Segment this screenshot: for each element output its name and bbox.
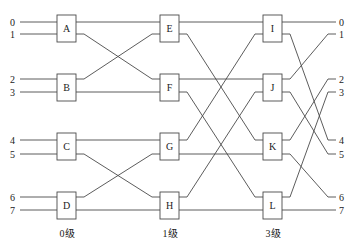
switch-E: E — [160, 15, 179, 42]
input-label-1: 1 — [10, 29, 15, 40]
output-labels: 0 1 2 3 4 5 6 7 — [339, 17, 344, 216]
input-label-4: 4 — [10, 135, 15, 146]
svg-text:K: K — [269, 141, 277, 152]
switch-D: D — [57, 192, 76, 219]
stage-3: I J K L 3级 — [263, 15, 282, 239]
svg-text:F: F — [167, 82, 173, 93]
switch-I: I — [263, 15, 282, 42]
input-label-5: 5 — [10, 149, 15, 160]
switch-G: G — [160, 133, 179, 160]
butterfly-network-diagram: 0 1 2 3 4 5 6 7 0 1 2 3 4 5 6 7 A B C — [0, 0, 357, 243]
output-label-5: 5 — [339, 149, 344, 160]
stage1-to-stage3-wires — [179, 22, 263, 210]
input-label-2: 2 — [10, 74, 15, 85]
svg-text:J: J — [271, 82, 275, 93]
input-label-0: 0 — [10, 17, 15, 28]
output-label-2: 2 — [339, 74, 344, 85]
output-label-0: 0 — [339, 17, 344, 28]
svg-text:B: B — [63, 82, 70, 93]
output-label-3: 3 — [339, 87, 344, 98]
input-wires — [20, 22, 57, 210]
stage-0: A B C D 0级 — [57, 15, 76, 239]
switch-L: L — [263, 192, 282, 219]
svg-text:I: I — [271, 23, 274, 34]
input-labels: 0 1 2 3 4 5 6 7 — [10, 17, 15, 216]
switch-K: K — [263, 133, 282, 160]
stage-1-label: 1级 — [163, 228, 178, 239]
output-label-6: 6 — [339, 192, 344, 203]
stage3-to-output-wires — [282, 22, 336, 210]
switch-A: A — [57, 15, 76, 42]
output-label-1: 1 — [339, 29, 344, 40]
output-label-4: 4 — [339, 135, 344, 146]
switch-C: C — [57, 133, 76, 160]
input-label-3: 3 — [10, 87, 15, 98]
stage-3-label: 3级 — [266, 228, 281, 239]
switch-J: J — [263, 74, 282, 101]
svg-text:A: A — [63, 23, 71, 34]
svg-text:C: C — [63, 141, 70, 152]
svg-text:D: D — [63, 200, 70, 211]
svg-text:E: E — [166, 23, 172, 34]
stage-1: E F G H 1级 — [160, 15, 179, 239]
switch-H: H — [160, 192, 179, 219]
switch-B: B — [57, 74, 76, 101]
input-label-6: 6 — [10, 192, 15, 203]
svg-text:L: L — [269, 200, 275, 211]
svg-text:H: H — [166, 200, 173, 211]
stage-0-label: 0级 — [60, 228, 75, 239]
switch-F: F — [160, 74, 179, 101]
output-label-7: 7 — [339, 205, 344, 216]
svg-text:G: G — [166, 141, 173, 152]
input-label-7: 7 — [10, 205, 15, 216]
stage0-to-stage1-wires — [76, 22, 160, 210]
